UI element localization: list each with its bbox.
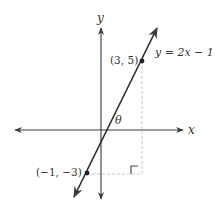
point-label-3-5: (3, 5) xyxy=(110,54,138,66)
right-angle-marker xyxy=(131,166,138,174)
point-neg1-neg3 xyxy=(85,171,90,176)
angle-theta-label: θ xyxy=(115,114,122,127)
point-label-neg1-neg3: (−1, −3) xyxy=(36,166,82,178)
coordinate-diagram: y x y = 2x − 1 (3, 5) (−1, −3) θ xyxy=(0,0,224,211)
point-3-5 xyxy=(140,59,145,64)
equation-label: y = 2x − 1 xyxy=(154,46,214,59)
y-axis-label: y xyxy=(96,11,104,25)
x-axis-label: x xyxy=(188,123,195,137)
